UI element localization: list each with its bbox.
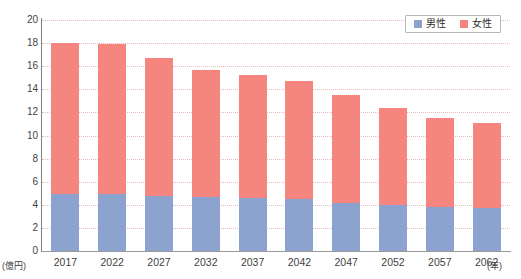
x-axis-tick-label: 2017 (54, 257, 77, 268)
y-axis-tick-label: 18 (4, 38, 38, 48)
bar-segment-female[interactable] (332, 95, 360, 202)
bar-segment-female[interactable] (285, 81, 313, 199)
x-axis-tick-label: 2032 (194, 257, 217, 268)
y-axis-tick-label: 20 (4, 15, 38, 25)
y-axis-tick-label: 2 (4, 223, 38, 233)
bar-segment-female[interactable] (239, 75, 267, 197)
bar-segment-female[interactable] (473, 123, 501, 208)
y-axis-tick-labels: 02468101214161820 (0, 20, 38, 251)
y-axis-tick-label: 14 (4, 84, 38, 94)
bar-segment-male[interactable] (379, 205, 407, 251)
plot-area (42, 20, 510, 251)
y-axis-tick-label: 12 (4, 107, 38, 117)
bar-segment-male[interactable] (473, 208, 501, 251)
y-axis-tick-label: 6 (4, 177, 38, 187)
bar-group[interactable] (145, 58, 173, 251)
bar-segment-female[interactable] (51, 43, 79, 194)
bar-segment-male[interactable] (285, 199, 313, 251)
x-axis-tick-label: 2042 (288, 257, 311, 268)
bar-segment-female[interactable] (426, 118, 454, 207)
legend-item[interactable]: 男性 (414, 19, 446, 29)
y-axis-tick-label: 16 (4, 61, 38, 71)
bar-segment-male[interactable] (426, 207, 454, 251)
legend-item-label: 男性 (426, 19, 446, 29)
y-axis-tick-label: 0 (4, 246, 38, 256)
y-axis-tick-label: 10 (4, 131, 38, 141)
chart-legend: 男性女性 (405, 15, 501, 33)
bar-group[interactable] (379, 108, 407, 251)
x-axis-unit-label: (年) (487, 259, 502, 272)
y-axis-unit-label: (億円) (2, 259, 26, 272)
bar-group[interactable] (332, 95, 360, 251)
legend-item-label: 女性 (472, 19, 492, 29)
x-axis-tick-label: 2057 (428, 257, 451, 268)
x-axis-tick-label: 2022 (101, 257, 124, 268)
bar-group[interactable] (285, 81, 313, 251)
bar-segment-female[interactable] (192, 70, 220, 197)
bar-segment-female[interactable] (98, 44, 126, 194)
x-axis-tick-label: 2027 (147, 257, 170, 268)
bar-segment-female[interactable] (379, 108, 407, 205)
y-axis-tick-label: 8 (4, 154, 38, 164)
chart-container: 02468101214161820 2017202220272032203720… (0, 0, 521, 279)
bar-segment-male[interactable] (98, 194, 126, 251)
x-axis-tick-label: 2037 (241, 257, 264, 268)
bar-segment-female[interactable] (145, 58, 173, 195)
y-axis-tick-label: 4 (4, 200, 38, 210)
bar-segment-male[interactable] (332, 203, 360, 252)
bar-group[interactable] (426, 118, 454, 251)
bar-group[interactable] (239, 75, 267, 251)
bar-group[interactable] (51, 43, 79, 251)
x-axis-tick-label: 2052 (381, 257, 404, 268)
bar-group[interactable] (192, 70, 220, 251)
bar-series-layer (42, 20, 510, 251)
bar-segment-male[interactable] (51, 194, 79, 251)
x-axis-tick-label: 2047 (335, 257, 358, 268)
bar-segment-male[interactable] (192, 197, 220, 251)
x-axis-line (41, 251, 511, 252)
bar-group[interactable] (98, 44, 126, 251)
bar-group[interactable] (473, 123, 501, 251)
bar-segment-male[interactable] (145, 196, 173, 251)
bar-segment-male[interactable] (239, 198, 267, 251)
legend-swatch-icon (460, 20, 468, 28)
legend-swatch-icon (414, 20, 422, 28)
legend-item[interactable]: 女性 (460, 19, 492, 29)
